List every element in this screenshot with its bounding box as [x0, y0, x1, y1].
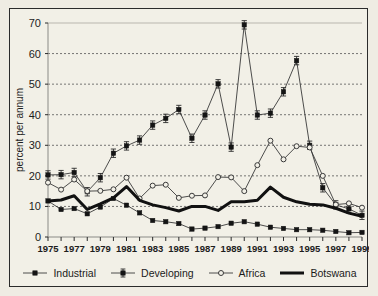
- legend-item-botswana[interactable]: Botswana: [279, 267, 356, 279]
- y-tick-label: 10: [29, 200, 41, 212]
- marker-africa: [229, 175, 234, 180]
- marker-developing: [46, 173, 50, 177]
- marker-africa: [216, 175, 221, 180]
- marker-industrial: [360, 230, 364, 234]
- screenshot-page: 010203040506070percent per annum19751977…: [0, 0, 378, 296]
- marker-africa: [203, 193, 208, 198]
- marker-developing: [268, 111, 272, 115]
- marker-industrial: [281, 226, 285, 230]
- marker-developing: [255, 113, 259, 117]
- marker-industrial: [72, 206, 76, 210]
- x-tick-label: 1981: [116, 243, 138, 254]
- marker-industrial: [137, 211, 141, 215]
- x-tick-label: 1987: [194, 243, 215, 254]
- marker-industrial: [229, 221, 233, 225]
- chart-legend: IndustrialDevelopingAfricaBotswana: [10, 261, 369, 285]
- y-tick-label: 0: [35, 231, 41, 243]
- x-tick-label: 1995: [299, 243, 321, 254]
- x-tick-label: 1991: [247, 243, 269, 254]
- marker-africa: [346, 201, 351, 206]
- x-tick-label: 1977: [64, 243, 85, 254]
- marker-africa: [242, 189, 247, 194]
- marker-africa: [360, 205, 365, 210]
- legend-label: Africa: [239, 267, 266, 279]
- marker-industrial: [164, 220, 168, 224]
- marker-industrial: [177, 221, 181, 225]
- x-tick-label: 1985: [168, 243, 190, 254]
- marker-industrial: [268, 225, 272, 229]
- marker-developing: [150, 123, 154, 127]
- y-tick-label: 70: [29, 17, 41, 29]
- y-tick-label: 20: [29, 170, 41, 182]
- marker-industrial: [334, 229, 338, 233]
- marker-africa: [72, 177, 77, 182]
- marker-developing: [321, 186, 325, 190]
- marker-industrial: [190, 227, 194, 231]
- x-tick-label: 1997: [325, 243, 346, 254]
- line-chart: 010203040506070percent per annum19751977…: [10, 9, 369, 259]
- legend-label: Botswana: [310, 267, 356, 279]
- marker-africa: [85, 189, 90, 194]
- x-tick-label: 1979: [90, 243, 111, 254]
- marker-industrial: [307, 227, 311, 231]
- y-tick-label: 50: [29, 78, 41, 90]
- marker-africa: [294, 144, 299, 149]
- marker-africa: [163, 182, 168, 187]
- marker-africa: [255, 163, 260, 168]
- marker-developing: [190, 136, 194, 140]
- marker-developing: [203, 113, 207, 117]
- legend-label: Industrial: [53, 267, 96, 279]
- chart-frame: 010203040506070percent per annum19751977…: [9, 8, 368, 287]
- marker-industrial: [216, 224, 220, 228]
- marker-africa: [176, 195, 181, 200]
- marker-developing: [72, 170, 76, 174]
- marker-developing: [59, 172, 63, 176]
- marker-africa: [268, 138, 273, 143]
- legend-swatch-botswana-icon: [279, 268, 305, 278]
- x-tick-label: 1993: [273, 243, 294, 254]
- marker-developing: [111, 151, 115, 155]
- marker-industrial: [347, 231, 351, 235]
- y-tick-label: 30: [29, 139, 41, 151]
- marker-developing: [98, 175, 102, 179]
- marker-industrial: [203, 226, 207, 230]
- marker-africa: [320, 173, 325, 178]
- marker-industrial: [85, 212, 89, 216]
- marker-developing: [294, 58, 298, 62]
- y-axis-label: percent per annum: [14, 88, 25, 172]
- marker-africa: [98, 188, 103, 193]
- marker-africa: [124, 175, 129, 180]
- y-tick-label: 40: [29, 109, 41, 121]
- marker-industrial: [124, 203, 128, 207]
- marker-industrial: [150, 218, 154, 222]
- marker-industrial: [321, 228, 325, 232]
- legend-swatch-developing-icon: [110, 268, 136, 278]
- legend-item-africa[interactable]: Africa: [208, 267, 266, 279]
- marker-developing: [124, 144, 128, 148]
- marker-africa: [46, 180, 51, 185]
- marker-developing: [281, 90, 285, 94]
- x-tick-label: 1975: [37, 243, 59, 254]
- marker-developing: [216, 82, 220, 86]
- legend-item-developing[interactable]: Developing: [110, 267, 194, 279]
- marker-africa: [281, 157, 286, 162]
- marker-industrial: [294, 227, 298, 231]
- marker-africa: [189, 193, 194, 198]
- marker-industrial: [242, 220, 246, 224]
- marker-developing: [137, 138, 141, 142]
- marker-developing: [229, 145, 233, 149]
- marker-developing: [347, 207, 351, 211]
- marker-africa: [111, 187, 116, 192]
- marker-africa: [59, 187, 64, 192]
- x-tick-label: 1983: [142, 243, 163, 254]
- legend-label: Developing: [141, 267, 194, 279]
- x-tick-label: 1989: [221, 243, 242, 254]
- x-tick-label: 1999: [351, 243, 369, 254]
- marker-developing: [242, 23, 246, 27]
- marker-industrial: [255, 222, 259, 226]
- legend-item-industrial[interactable]: Industrial: [22, 267, 96, 279]
- marker-developing: [177, 107, 181, 111]
- marker-developing: [164, 116, 168, 120]
- marker-africa: [307, 145, 312, 150]
- marker-industrial: [59, 207, 63, 211]
